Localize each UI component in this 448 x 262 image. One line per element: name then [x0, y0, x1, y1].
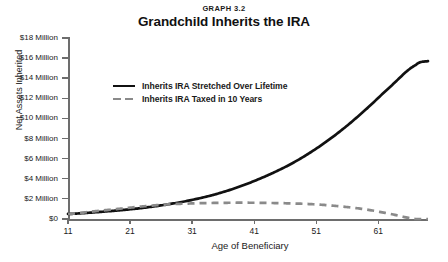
legend-label: Inherits IRA Taxed in 10 Years [142, 94, 262, 104]
legend: Inherits IRA Stretched Over LifetimeInhe… [113, 79, 353, 105]
x-tick-label: 11 [48, 226, 88, 236]
y-tick: $12 Million [0, 93, 68, 103]
legend-swatch-solid [113, 80, 135, 92]
chart-page: GRAPH 3.2 Grandchild Inherits the IRA Ne… [0, 0, 448, 262]
x-tick-label: 31 [172, 226, 212, 236]
y-tick: $6 Million [0, 154, 68, 164]
y-tick-label: $0 [49, 214, 58, 224]
y-tick: $8 Million [0, 134, 68, 144]
y-tick-label: $2 Million [24, 194, 58, 204]
y-tick-label: $8 Million [24, 134, 58, 144]
y-tick: $2 Million [0, 194, 68, 204]
y-axis-label: Net Assets Inherited [14, 30, 24, 150]
x-axis-line [68, 219, 428, 221]
page-title: Grandchild Inherits the IRA [0, 14, 448, 29]
x-tick-label: 41 [234, 226, 274, 236]
plot-area [68, 38, 428, 219]
y-tick: $10 Million [0, 113, 68, 123]
y-tick-label: $18 Million [20, 33, 58, 43]
x-tick-label: 21 [110, 226, 150, 236]
graph-number-label: GRAPH 3.2 [0, 4, 448, 13]
y-tick-label: $4 Million [24, 174, 58, 184]
legend-item: Inherits IRA Stretched Over Lifetime [113, 79, 353, 92]
x-tick-label: 51 [296, 226, 336, 236]
legend-label: Inherits IRA Stretched Over Lifetime [142, 81, 287, 91]
legend-item: Inherits IRA Taxed in 10 Years [113, 92, 353, 105]
y-tick: $0 [0, 214, 68, 224]
legend-swatch-dashed [113, 93, 135, 105]
y-tick-label: $12 Million [20, 93, 58, 103]
y-tick-label: $10 Million [20, 113, 58, 123]
x-axis-label: Age of Beneficiary [76, 240, 424, 251]
y-tick-label: $16 Million [20, 53, 58, 63]
y-tick-label: $6 Million [24, 154, 58, 164]
y-tick: $16 Million [0, 53, 68, 63]
y-tick: $18 Million [0, 33, 68, 43]
series-lines [68, 38, 428, 219]
x-tick-label: 61 [358, 226, 398, 236]
y-tick: $4 Million [0, 174, 68, 184]
y-tick: $14 Million [0, 73, 68, 83]
y-tick-label: $14 Million [20, 73, 58, 83]
